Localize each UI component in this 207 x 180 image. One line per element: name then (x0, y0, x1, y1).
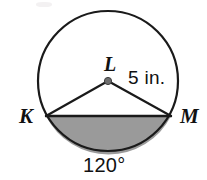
figure-canvas: L K M 5 in. 120° (0, 0, 207, 180)
point-label-k: K (19, 106, 33, 127)
radius-segment-lk (46, 81, 108, 116)
center-label-l: L (104, 54, 116, 74)
center-point-dot (104, 77, 111, 84)
radius-measure-label: 5 in. (128, 68, 165, 87)
point-label-m: M (180, 106, 199, 127)
central-angle-label: 120° (83, 155, 126, 175)
circle-diagram-svg (0, 0, 207, 180)
